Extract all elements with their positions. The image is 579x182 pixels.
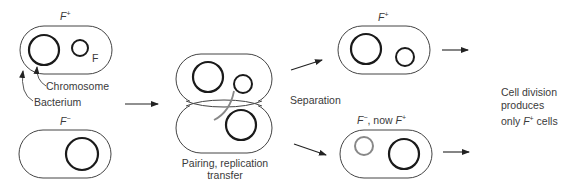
- result-bottom-label: F−, now F+: [357, 112, 406, 126]
- pairing-caption-line1: Pairing, replication: [170, 157, 280, 169]
- pairing-cells: [176, 54, 272, 153]
- outcome-line1: Cell division: [501, 86, 558, 99]
- conjugation-diagram: F+ F Chromosome Bacterium F− Pairing, re…: [0, 0, 579, 182]
- arrow-icon: [294, 144, 326, 155]
- recipient-cell: [19, 130, 111, 178]
- pairing-caption: Pairing, replication transfer: [170, 157, 280, 181]
- plasmid-icon: [234, 75, 252, 93]
- plasmid-label: F: [92, 52, 98, 64]
- chromosome-icon: [66, 138, 98, 170]
- outcome-line3: only F+ cells: [501, 112, 558, 128]
- pairing-caption-line2: transfer: [170, 169, 280, 181]
- new-plasmid-icon: [355, 137, 373, 155]
- chromosome-icon: [351, 34, 381, 64]
- plasmid-icon: [72, 40, 88, 56]
- donor-label: F+: [60, 8, 71, 22]
- chromosome-icon: [226, 110, 256, 140]
- separation-label: Separation: [290, 94, 341, 106]
- chromosome-pointer: [37, 67, 46, 86]
- result-top-label: F+: [378, 9, 389, 23]
- outcome-text: Cell division produces only F+ cells: [501, 86, 558, 128]
- bacterium-pointer: [22, 71, 33, 101]
- plasmid-icon: [396, 48, 414, 66]
- result-top-cell: [338, 26, 430, 74]
- recipient-label: F−: [60, 113, 71, 127]
- bacterium-label: Bacterium: [34, 96, 81, 108]
- outcome-line2: produces: [501, 99, 558, 112]
- result-bottom-cell: [340, 130, 432, 178]
- chromosome-icon: [193, 62, 223, 92]
- donor-cell: [20, 26, 112, 74]
- chromosome-icon: [29, 35, 59, 65]
- chromosome-icon: [389, 139, 419, 169]
- chromosome-label: Chromosome: [46, 80, 109, 92]
- arrow-icon: [291, 60, 322, 70]
